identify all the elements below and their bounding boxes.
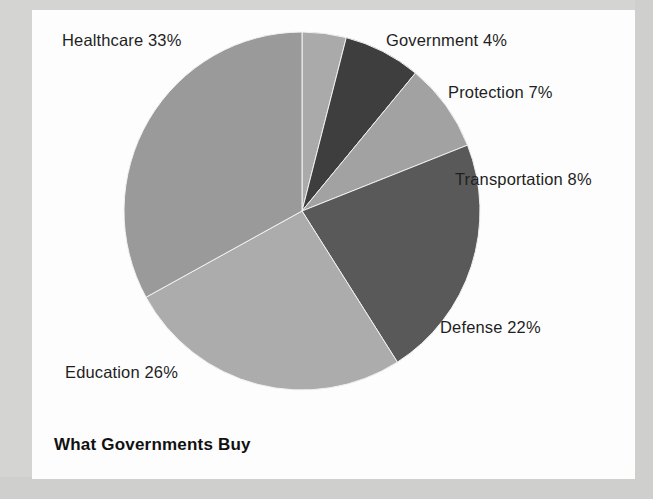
page-canvas: Healthcare 33% Government 4% Protection … — [0, 0, 653, 499]
slice-label-defense: Defense 22% — [440, 318, 541, 337]
slice-label-transportation: Transportation 8% — [455, 170, 592, 189]
slice-label-government: Government 4% — [386, 31, 507, 50]
slice-label-education: Education 26% — [65, 363, 178, 382]
pie-chart-svg — [0, 0, 653, 499]
slice-label-protection: Protection 7% — [448, 83, 553, 102]
slice-label-healthcare: Healthcare 33% — [62, 31, 182, 50]
chart-title: What Governments Buy — [54, 435, 251, 455]
pie-chart: Healthcare 33% Government 4% Protection … — [0, 0, 653, 499]
pie-slice-group — [124, 32, 480, 390]
